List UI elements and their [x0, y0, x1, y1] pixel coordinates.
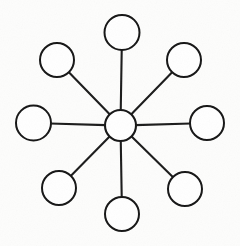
- star-diagram-svg: [0, 0, 240, 246]
- star-diagram-canvas: [0, 0, 240, 246]
- scan-noise-overlay: [0, 0, 240, 246]
